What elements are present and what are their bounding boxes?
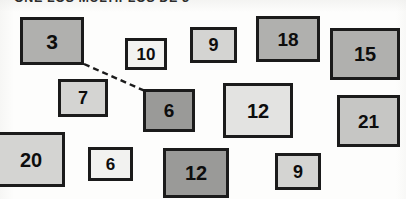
number-box[interactable]: 20 <box>0 132 65 187</box>
number-box-value: 21 <box>358 112 379 131</box>
number-box[interactable]: 21 <box>337 95 400 147</box>
number-box[interactable]: 9 <box>275 153 321 190</box>
number-box[interactable]: 6 <box>143 89 195 132</box>
worksheet-canvas: ONE LOS MULTIPLOS DE 3 31091815761221206… <box>0 0 406 199</box>
number-box[interactable]: 10 <box>125 38 167 70</box>
number-box-value: 3 <box>46 31 58 52</box>
number-box-value: 9 <box>293 163 303 181</box>
number-box-value: 6 <box>164 101 175 120</box>
number-box-value: 18 <box>277 30 298 49</box>
number-box-value: 10 <box>137 46 156 63</box>
number-box[interactable]: 3 <box>20 17 84 65</box>
number-box-value: 6 <box>106 156 115 173</box>
number-box-value: 20 <box>20 150 42 170</box>
worksheet-heading: ONE LOS MULTIPLOS DE 3 <box>14 0 189 5</box>
number-box-value: 12 <box>247 101 269 121</box>
number-box[interactable]: 15 <box>330 28 400 80</box>
number-box-value: 7 <box>78 89 88 107</box>
number-box[interactable]: 12 <box>163 148 229 198</box>
number-box[interactable]: 7 <box>58 79 108 117</box>
number-box[interactable]: 6 <box>88 147 133 181</box>
number-box-value: 9 <box>208 36 218 54</box>
number-box[interactable]: 9 <box>190 27 237 63</box>
number-box-value: 15 <box>354 44 376 64</box>
number-box[interactable]: 18 <box>256 16 320 62</box>
number-box-value: 12 <box>185 163 207 183</box>
number-box[interactable]: 12 <box>223 83 293 138</box>
